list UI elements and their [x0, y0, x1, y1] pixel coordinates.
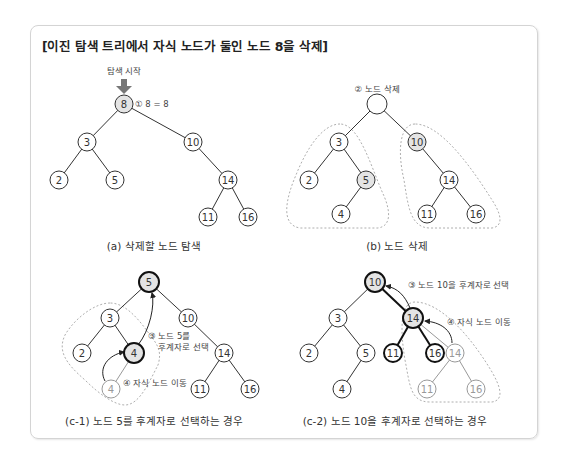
step3-label: ③ 노드 10을 후계자로 선택 — [408, 280, 509, 290]
node-11: 11 — [191, 380, 209, 398]
svg-text:14: 14 — [443, 175, 456, 186]
svg-text:2: 2 — [306, 348, 312, 359]
caption-c1: (c-1) 노드 5를 후계자로 선택하는 경우 — [65, 415, 243, 427]
node-4: 4 — [333, 380, 351, 398]
panel-c2: 10 3 14 2 5 11 16 14 4 11 16 ③ 노드 10을 후계… — [300, 272, 511, 427]
svg-text:4: 4 — [131, 348, 137, 359]
svg-text:10: 10 — [369, 277, 382, 288]
node-11: 11 — [199, 208, 217, 226]
down-arrow-icon — [116, 79, 132, 94]
node-14: 14 — [440, 171, 458, 189]
step4-label: ④ 자식 노드 이동 — [447, 317, 511, 327]
svg-text:8: 8 — [121, 99, 127, 110]
step3-label-line2: 후계자로 선택 — [158, 342, 209, 352]
node-4-moved: 4 — [124, 343, 144, 363]
svg-text:3: 3 — [107, 313, 113, 324]
deleted-node-empty — [367, 94, 387, 114]
svg-text:5: 5 — [363, 175, 369, 186]
svg-text:14: 14 — [449, 348, 462, 359]
caption-b: (b) 노드 삭제 — [366, 240, 428, 252]
svg-text:4: 4 — [338, 209, 344, 220]
node-10: 10 — [184, 133, 202, 151]
svg-text:10: 10 — [187, 137, 200, 148]
node-16: 16 — [241, 380, 259, 398]
caption-c2: (c-2) 노드 10을 후계자로 선택하는 경우 — [303, 415, 487, 427]
svg-text:2: 2 — [306, 175, 312, 186]
search-start-label: 탐색 시작 — [107, 66, 142, 76]
node-4-old: 4 — [102, 380, 120, 398]
svg-text:10: 10 — [411, 137, 424, 148]
bst-deletion-diagram: 탐색 시작 8 ① 8 = 8 3 10 2 5 14 11 16 (a) 삭제… — [0, 0, 567, 463]
node-2: 2 — [300, 171, 318, 189]
tree-edges-c2 — [309, 282, 375, 389]
node-14-moved: 14 — [403, 308, 423, 328]
node-11: 11 — [418, 205, 436, 223]
svg-text:4: 4 — [339, 384, 345, 395]
svg-text:11: 11 — [202, 212, 215, 223]
node-2: 2 — [300, 344, 318, 362]
step2-label: ② 노드 삭제 — [354, 84, 399, 94]
node-3: 3 — [101, 309, 119, 327]
svg-text:11: 11 — [194, 384, 207, 395]
node-16: 16 — [467, 205, 485, 223]
svg-text:11: 11 — [387, 348, 400, 359]
step4-label: ④ 자식 노드 이동 — [123, 378, 187, 388]
svg-text:16: 16 — [470, 209, 483, 220]
svg-text:3: 3 — [335, 313, 341, 324]
svg-text:11: 11 — [421, 384, 434, 395]
svg-text:14: 14 — [407, 313, 420, 324]
node-5: 5 — [357, 344, 375, 362]
svg-text:2: 2 — [79, 348, 85, 359]
node-16-moved: 16 — [426, 344, 444, 362]
svg-text:4: 4 — [108, 384, 114, 395]
node-14: 14 — [215, 344, 233, 362]
svg-text:16: 16 — [470, 384, 483, 395]
step3-label-line1: ③ 노드 5를 — [148, 331, 190, 341]
tree-edges-a — [59, 104, 248, 217]
node-2: 2 — [50, 171, 68, 189]
svg-text:11: 11 — [421, 209, 434, 220]
svg-text:5: 5 — [146, 277, 152, 288]
node-8: 8 — [115, 95, 133, 113]
svg-text:14: 14 — [222, 175, 235, 186]
node-10: 10 — [408, 133, 426, 151]
node-10-successor: 10 — [365, 272, 385, 292]
node-10: 10 — [179, 309, 197, 327]
tree-edges-b — [309, 104, 476, 214]
svg-text:2: 2 — [56, 175, 62, 186]
node-2: 2 — [73, 344, 91, 362]
svg-text:14: 14 — [218, 348, 231, 359]
node-14: 14 — [219, 171, 237, 189]
node-5: 5 — [106, 171, 124, 189]
node-5-successor: 5 — [139, 272, 159, 292]
svg-text:16: 16 — [242, 212, 255, 223]
caption-a: (a) 삭제할 노드 탐색 — [107, 240, 202, 252]
node-4: 4 — [332, 205, 350, 223]
node-3: 3 — [329, 309, 347, 327]
node-11-old: 11 — [418, 380, 436, 398]
svg-text:3: 3 — [84, 137, 90, 148]
svg-text:5: 5 — [363, 348, 369, 359]
node-11-moved: 11 — [384, 344, 402, 362]
child-move-arrow — [103, 352, 124, 381]
svg-text:16: 16 — [429, 348, 442, 359]
node-16: 16 — [239, 208, 257, 226]
step1-label: ① 8 = 8 — [135, 99, 169, 109]
svg-text:3: 3 — [336, 137, 342, 148]
panel-c1: 5 3 10 2 4 4 14 11 16 ③ 노드 5를 후계자로 선택 ④ … — [62, 272, 259, 427]
svg-text:10: 10 — [182, 313, 195, 324]
svg-text:16: 16 — [244, 384, 257, 395]
panel-a: 탐색 시작 8 ① 8 = 8 3 10 2 5 14 11 16 (a) 삭제… — [50, 66, 257, 252]
node-3: 3 — [78, 133, 96, 151]
node-16-old: 16 — [467, 380, 485, 398]
svg-text:5: 5 — [112, 175, 118, 186]
node-5: 5 — [357, 171, 375, 189]
panel-b: ② 노드 삭제 3 10 2 5 4 14 11 16 (b) 노드 삭제 — [287, 84, 500, 252]
node-3: 3 — [330, 133, 348, 151]
node-14-old: 14 — [446, 344, 464, 362]
